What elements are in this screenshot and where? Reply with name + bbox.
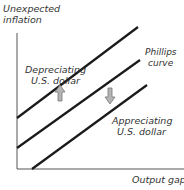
depreciating-label-line2: U.S. dollar — [31, 75, 80, 86]
x-axis-label: Output gap — [132, 174, 184, 185]
phillips-label-line2: curve — [148, 58, 173, 69]
y-axis-label-line2: inflation — [3, 14, 42, 25]
appreciating-label-line1: Appreciating — [112, 115, 172, 126]
y-axis-label-line1: Unexpected — [3, 3, 60, 14]
depreciating-label-line1: Depreciating — [25, 64, 86, 75]
appreciating-label-line2: U.S. dollar — [117, 126, 166, 137]
phillips-curve-diagram — [0, 0, 184, 190]
down-arrow-icon — [105, 88, 115, 104]
phillips-label-line1: Phillips — [145, 47, 177, 58]
